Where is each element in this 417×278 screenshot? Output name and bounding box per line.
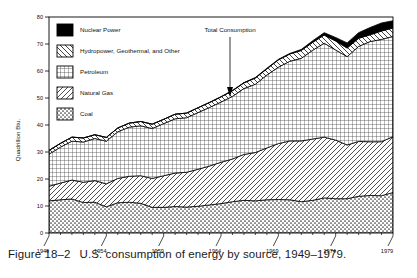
y-tick-label: 20 [37,176,43,182]
legend-label: Petroleum [80,68,108,75]
legend-label: Natural Gas [80,89,113,96]
legend-swatch-hydropower-geothermal-and-other [57,45,73,57]
y-tick-label: 70 [37,41,43,47]
figure-caption: Figure 18–2U.S. consumption of energy by… [8,248,346,260]
figure-number: Figure 18–2 [8,248,70,260]
y-tick-label: 80 [37,14,43,20]
figure-container: 01020304050607080 1949195419591964196919… [0,0,417,278]
legend-swatch-nuclear-power [57,24,73,36]
legend-swatch-petroleum [57,66,73,78]
y-tick-label: 60 [37,68,43,74]
figure-caption-text: U.S. consumption of energy by source, 19… [79,248,346,260]
annotation-label: Total Consumption [204,26,256,33]
legend-swatch-natural-gas [57,87,73,99]
y-axis-label: Quadrillion Btu. [14,119,21,162]
y-tick-label: 10 [37,203,43,209]
legend-label: Nuclear Power [80,26,121,33]
legend-swatch-coal [57,108,73,120]
legend-label: Coal [80,110,93,117]
y-tick-label: 40 [37,122,43,128]
y-tick-label: 0 [40,230,43,236]
energy-consumption-stacked-area-chart: 01020304050607080 1949195419591964196919… [0,0,417,278]
y-tick-label: 30 [37,149,43,155]
y-tick-label: 50 [37,95,43,101]
legend-label: Hydropower, Geothermal, and Other [80,47,180,54]
x-tick-label: 1979 [381,248,393,254]
